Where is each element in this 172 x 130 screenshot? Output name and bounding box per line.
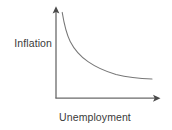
phillips-curve-figure: Inflation Unemployment — [0, 0, 172, 130]
x-axis-label: Unemployment — [0, 112, 172, 123]
y-axis-label: Inflation — [8, 38, 52, 49]
phillips-curve-line — [62, 12, 152, 79]
